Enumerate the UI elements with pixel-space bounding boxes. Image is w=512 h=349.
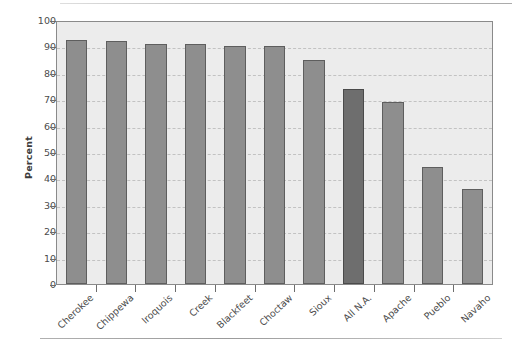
bar (422, 167, 443, 284)
bar-cell (136, 22, 176, 284)
top-divider-rule (60, 3, 512, 4)
bar-cell (294, 22, 334, 284)
bar-cell (176, 22, 216, 284)
x-tick-mark (334, 285, 335, 292)
bar-cell (413, 22, 453, 284)
x-tick-mark (294, 285, 295, 292)
x-tick-mark (175, 285, 176, 292)
bar-cell (334, 22, 374, 284)
bar (66, 40, 87, 284)
bar (145, 44, 166, 284)
bar-cell (452, 22, 492, 284)
y-axis: Percent 0102030405060708090100 (0, 21, 56, 285)
bar (382, 102, 403, 284)
bar (462, 189, 483, 284)
bar-series (57, 22, 492, 284)
x-tick-mark (453, 285, 454, 292)
bottom-divider-rule (40, 338, 502, 339)
bar (106, 41, 127, 284)
x-tick-mark (414, 285, 415, 292)
bar-cell (97, 22, 137, 284)
bar-cell (215, 22, 255, 284)
bar (185, 44, 206, 284)
x-axis-ticks (56, 285, 493, 292)
x-tick-mark (135, 285, 136, 292)
bar-cell (57, 22, 97, 284)
bar (264, 46, 285, 284)
x-tick-mark (255, 285, 256, 292)
bar (303, 60, 324, 284)
x-tick-mark (215, 285, 216, 292)
bar (343, 89, 364, 284)
x-tick-mark (96, 285, 97, 292)
bar-cell (373, 22, 413, 284)
bar-chart-figure: Percent 0102030405060708090100 CherokeeC… (0, 0, 512, 349)
plot-area (56, 21, 493, 285)
bar (224, 46, 245, 284)
bar-cell (255, 22, 295, 284)
x-tick-mark (374, 285, 375, 292)
x-axis-labels: CherokeeChippewaIroquoisCreekBlackfeetCh… (56, 292, 493, 348)
